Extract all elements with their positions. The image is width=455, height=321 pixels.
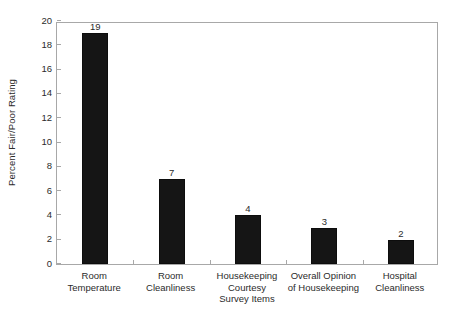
- y-axis-tick: 20: [57, 20, 61, 21]
- bar: 7: [159, 179, 185, 264]
- y-axis-tick: 6: [57, 190, 61, 191]
- bar: 3: [311, 228, 337, 264]
- x-axis-category-label-line: Survey Items: [209, 293, 285, 305]
- x-axis-category-label-line: Cleanliness: [362, 282, 438, 294]
- x-axis-category-label: HousekeepingCourtesySurvey Items: [209, 270, 285, 305]
- x-axis-category-label-line: Temperature: [56, 282, 132, 294]
- y-axis-title-text: Percent Fair/Poor Rating: [6, 79, 17, 186]
- y-axis-tick: 8: [57, 166, 61, 167]
- bar: 19: [82, 33, 108, 264]
- y-axis-tick-label: 0: [47, 258, 52, 269]
- y-axis-tick: 14: [57, 93, 61, 94]
- y-axis-tick-label: 2: [47, 233, 52, 244]
- x-axis-category-label-line: Housekeeping: [209, 270, 285, 282]
- bar-value-label: 4: [245, 203, 250, 214]
- x-axis-tick: [286, 260, 287, 264]
- y-axis-tick: 12: [57, 117, 61, 118]
- y-axis-tick: 18: [57, 44, 61, 45]
- x-axis-tick: [363, 260, 364, 264]
- bar-value-label: 2: [398, 228, 403, 239]
- x-axis-category-label-line: Room: [56, 270, 132, 282]
- y-axis-title: Percent Fair/Poor Rating: [0, 0, 22, 265]
- y-axis-tick-label: 8: [47, 160, 52, 171]
- x-axis-category-label-line: Cleanliness: [132, 282, 208, 294]
- bar-chart-figure: Percent Fair/Poor Rating 024681012141618…: [0, 0, 455, 321]
- y-axis-tick: 4: [57, 214, 61, 215]
- y-axis-tick-label: 10: [41, 136, 52, 147]
- bar-value-label: 7: [169, 167, 174, 178]
- y-axis-tick-label: 18: [41, 39, 52, 50]
- x-axis-tick: [210, 260, 211, 264]
- y-axis-tick-label: 14: [41, 87, 52, 98]
- x-axis-category-label: HospitalCleanliness: [362, 270, 438, 293]
- x-axis-category-label: Overall Opinionof Housekeeping: [285, 270, 361, 293]
- x-axis-tick: [133, 260, 134, 264]
- y-axis-tick-label: 4: [47, 209, 52, 220]
- x-axis-category-label: RoomTemperature: [56, 270, 132, 293]
- bar: 4: [235, 215, 261, 264]
- x-axis-category-label-line: Courtesy: [209, 282, 285, 294]
- y-axis-tick-label: 6: [47, 185, 52, 196]
- y-axis-tick-label: 16: [41, 63, 52, 74]
- bar-value-label: 3: [322, 216, 327, 227]
- x-axis-category-label-line: Overall Opinion: [285, 270, 361, 282]
- plot-area: 02468101214161820 197432: [56, 22, 438, 265]
- x-axis-category-label-line: of Housekeeping: [285, 282, 361, 294]
- y-axis-tick: 16: [57, 69, 61, 70]
- bar-value-label: 19: [90, 21, 101, 32]
- y-axis-tick-label: 20: [41, 15, 52, 26]
- y-axis-tick-label: 12: [41, 112, 52, 123]
- y-axis-tick: 10: [57, 142, 61, 143]
- x-axis-category-label-line: Hospital: [362, 270, 438, 282]
- y-axis-tick: 0: [57, 263, 61, 264]
- bar: 2: [388, 240, 414, 264]
- x-axis-category-label-line: Room: [132, 270, 208, 282]
- x-axis-category-label: RoomCleanliness: [132, 270, 208, 293]
- y-axis-tick: 2: [57, 239, 61, 240]
